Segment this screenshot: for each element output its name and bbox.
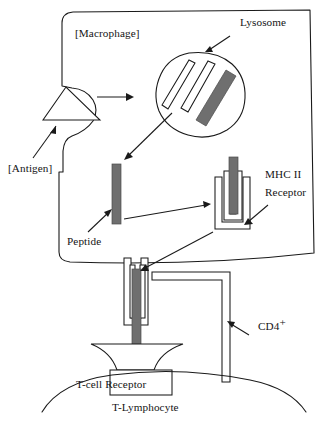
- label-cd4-superscript: +: [279, 316, 285, 328]
- arrow-engulfment: [97, 93, 134, 101]
- label-lysosome: Lysosome: [240, 16, 286, 28]
- diagram-canvas: [Macrophage] Lysosome [Antigen] Peptide …: [0, 0, 334, 426]
- arrow-peptide-label: [88, 209, 112, 232]
- label-t-cell-receptor: T-cell Receptor: [76, 378, 147, 390]
- arrow-peptide-release: [124, 113, 172, 160]
- arrow-antigen-label: [33, 126, 56, 158]
- lysosome-vesicle: [156, 52, 245, 137]
- label-cd4: CD4+: [258, 316, 286, 332]
- label-cd4-text: CD4: [258, 320, 280, 332]
- free-peptide-bar: [112, 164, 121, 224]
- mhc-ii-receptor: [215, 157, 250, 229]
- antigen-particle: [43, 87, 100, 120]
- arrow-mhc-trafficking: [140, 232, 213, 271]
- label-peptide: Peptide: [67, 235, 101, 247]
- label-antigen: [Antigen]: [8, 162, 52, 174]
- macrophage-cell-body: [59, 10, 314, 263]
- label-macrophage: [Macrophage]: [75, 27, 140, 39]
- label-mhc-ii-line2: Receptor: [265, 186, 306, 198]
- antigen-presentation-diagram: [Macrophage] Lysosome [Antigen] Peptide …: [0, 0, 334, 426]
- arrow-peptide-loading: [124, 201, 211, 219]
- mhc-ii-surface-complex: [124, 258, 148, 358]
- arrow-lysosome-label: [205, 36, 230, 52]
- label-mhc-ii-line1: MHC II: [265, 168, 302, 180]
- label-t-lymphocyte: T-Lymphocyte: [112, 401, 179, 413]
- cd4-coreceptor: [152, 272, 230, 382]
